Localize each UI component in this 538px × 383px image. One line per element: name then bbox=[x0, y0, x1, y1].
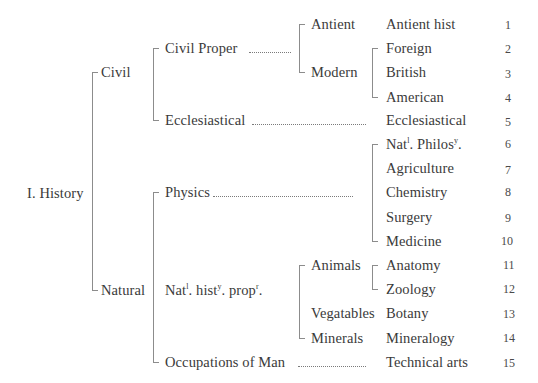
leaf-number-1: 1 bbox=[505, 17, 511, 33]
bracket-tick-natural bbox=[92, 290, 98, 291]
leaf-number-11: 11 bbox=[503, 257, 515, 273]
node-occupations-of-man: Occupations of Man bbox=[165, 353, 285, 371]
text: Nat bbox=[386, 136, 407, 152]
bracket-tick-civil-proper bbox=[153, 48, 159, 49]
bracket-tick-physics bbox=[153, 192, 159, 193]
leader-dots-ecclesiastical bbox=[252, 124, 366, 125]
leaf-number-2: 2 bbox=[505, 41, 511, 57]
bracket-tick-civil bbox=[92, 72, 98, 73]
leaf-number-9: 9 bbox=[505, 210, 511, 226]
leaf-chemistry: Chemistry bbox=[386, 183, 447, 201]
leaf-anatomy: Anatomy bbox=[386, 256, 441, 274]
root-node-history: I. History bbox=[27, 184, 84, 202]
leaf-american: American bbox=[386, 88, 444, 106]
bracket-natural bbox=[153, 192, 154, 362]
bracket-tick-minerals bbox=[299, 338, 305, 339]
node-vegatables: Vegatables bbox=[311, 304, 375, 322]
leaf-number-3: 3 bbox=[505, 66, 511, 82]
text: . bbox=[458, 136, 462, 152]
bracket-tick-foreign bbox=[372, 48, 378, 49]
leaf-agriculture: Agriculture bbox=[386, 159, 454, 177]
leaf-number-15: 15 bbox=[503, 355, 515, 371]
bracket-animals bbox=[372, 265, 373, 289]
node-natural-history-proper: Natl. histy. propr. bbox=[165, 281, 262, 299]
node-animals: Animals bbox=[311, 256, 361, 274]
node-civil: Civil bbox=[101, 63, 131, 81]
text: . hist bbox=[189, 282, 218, 298]
leaf-number-7: 7 bbox=[505, 162, 511, 178]
bracket-tick-antient bbox=[299, 24, 305, 25]
bracket-tick-medicine bbox=[372, 241, 378, 242]
bracket-tick-anatomy bbox=[372, 265, 378, 266]
bracket-tick-occupations bbox=[153, 362, 159, 363]
node-antient: Antient bbox=[311, 15, 355, 33]
leaf-number-14: 14 bbox=[503, 330, 515, 346]
leaf-zoology: Zoology bbox=[386, 280, 436, 298]
leaf-mineralogy: Mineralogy bbox=[386, 329, 455, 347]
bracket-modern bbox=[372, 48, 373, 97]
leaf-surgery: Surgery bbox=[386, 208, 432, 226]
leader-dots-physics bbox=[213, 196, 353, 197]
node-modern: Modern bbox=[311, 63, 358, 81]
bracket-civil-proper bbox=[299, 24, 300, 72]
leaf-antient-history: Antient hist bbox=[386, 15, 455, 33]
leaf-ecclesiastical: Ecclesiastical bbox=[386, 111, 466, 129]
node-physics: Physics bbox=[165, 183, 210, 201]
leaf-number-5: 5 bbox=[505, 114, 511, 130]
bracket-tick-american bbox=[372, 97, 378, 98]
leaf-foreign: Foreign bbox=[386, 39, 432, 57]
leader-dots-civil-proper bbox=[249, 52, 291, 53]
leaf-number-6: 6 bbox=[505, 136, 511, 152]
text: . prop bbox=[222, 282, 256, 298]
leaf-technical-arts: Technical arts bbox=[386, 353, 468, 371]
leaf-medicine: Medicine bbox=[386, 232, 442, 250]
leaf-number-12: 12 bbox=[503, 281, 515, 297]
bracket-tick-animals bbox=[299, 265, 305, 266]
bracket-civil bbox=[153, 48, 154, 120]
bracket-tick-nat-philos bbox=[372, 144, 378, 145]
bracket-tick-zoology bbox=[372, 289, 378, 290]
leaf-number-10: 10 bbox=[501, 233, 513, 249]
bracket-tick-ecclesiastical bbox=[153, 120, 159, 121]
bracket-history bbox=[92, 72, 93, 290]
bracket-natural-history-proper bbox=[299, 265, 300, 338]
leaf-botany: Botany bbox=[386, 304, 429, 322]
bracket-tick-modern bbox=[299, 72, 305, 73]
node-ecclesiastical: Ecclesiastical bbox=[165, 111, 245, 129]
leader-dots-occupations bbox=[298, 366, 366, 367]
node-minerals: Minerals bbox=[311, 329, 363, 347]
leaf-british: British bbox=[386, 63, 426, 81]
text: . Philos bbox=[410, 136, 454, 152]
node-civil-proper: Civil Proper bbox=[165, 39, 238, 57]
leaf-number-13: 13 bbox=[503, 306, 515, 322]
text: Nat bbox=[165, 282, 186, 298]
leaf-natural-philosophy: Natl. Philosy. bbox=[386, 135, 462, 153]
leaf-number-4: 4 bbox=[505, 90, 511, 106]
leaf-number-8: 8 bbox=[505, 184, 511, 200]
node-natural: Natural bbox=[101, 281, 145, 299]
bracket-physics bbox=[372, 144, 373, 241]
text: . bbox=[259, 282, 263, 298]
